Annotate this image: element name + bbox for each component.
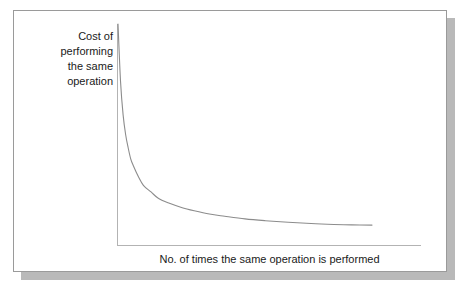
- y-axis-label: Cost of performing the same operation: [20, 29, 113, 89]
- x-axis-label: No. of times the same operation is perfo…: [117, 252, 422, 267]
- figure-page: Cost of performing the same operation No…: [0, 0, 469, 292]
